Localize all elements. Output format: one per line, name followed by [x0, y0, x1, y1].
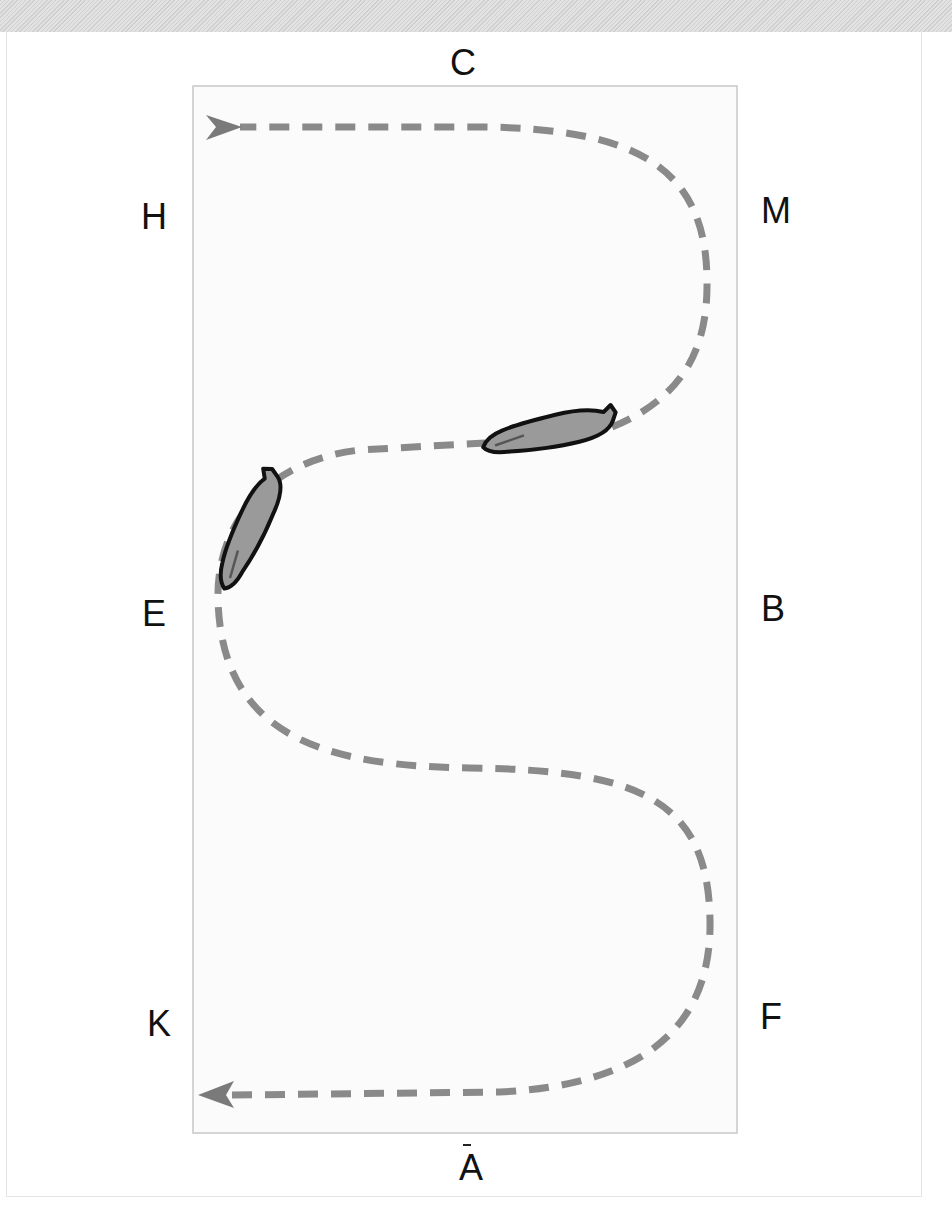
marker-b: B — [761, 591, 785, 627]
arena-boundary — [193, 86, 737, 1133]
entry-tick — [463, 1144, 471, 1146]
marker-a: A — [459, 1150, 483, 1186]
marker-f: F — [760, 999, 782, 1035]
marker-h: H — [141, 199, 167, 235]
marker-m: M — [761, 193, 791, 229]
marker-e: E — [142, 596, 166, 632]
marker-k: K — [147, 1006, 171, 1042]
marker-c: C — [450, 45, 476, 81]
